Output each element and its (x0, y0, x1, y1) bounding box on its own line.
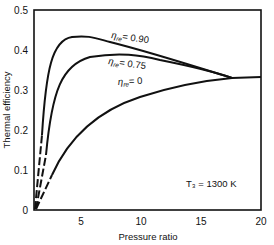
chart: 0 0.1 0.2 0.3 0.4 0.5 5 10 15 20 Pressur… (0, 0, 274, 245)
temperature-annotation: T₃ = 1300 K (186, 178, 237, 189)
label-eta-0: ηre= 0 (118, 75, 143, 88)
svg-text:20: 20 (255, 216, 267, 227)
svg-text:15: 15 (195, 216, 207, 227)
curve-eta-0 (52, 77, 261, 175)
x-tick-labels: 5 10 15 20 (78, 216, 267, 227)
svg-text:0.5: 0.5 (14, 5, 28, 16)
svg-text:5: 5 (78, 216, 84, 227)
svg-text:10: 10 (135, 216, 147, 227)
x-axis-label: Pressure ratio (118, 231, 177, 242)
svg-text:0.2: 0.2 (14, 125, 28, 136)
y-axis-label: Thermal efficiency (1, 71, 12, 148)
svg-text:0.4: 0.4 (14, 45, 28, 56)
svg-text:0.1: 0.1 (14, 165, 28, 176)
label-eta-075: ηre= 0.75 (108, 55, 147, 72)
svg-text:0.3: 0.3 (14, 85, 28, 96)
svg-text:0: 0 (22, 205, 28, 216)
y-tick-labels: 0 0.1 0.2 0.3 0.4 0.5 (14, 5, 28, 216)
